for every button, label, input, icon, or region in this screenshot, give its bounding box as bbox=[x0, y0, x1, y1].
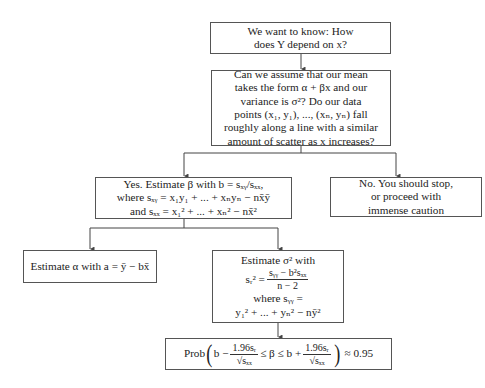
node-sigma-numerator: sᵧᵧ − b²sₓₓ bbox=[267, 267, 309, 280]
node-question: We want to know: How does Y depend on x? bbox=[210, 22, 391, 54]
node-ci-formula: Prob ( b − 1.96sᵣ √sₓₓ ≤ β ≤ b + 1.96sᵣ … bbox=[184, 341, 373, 367]
node-ci-approx: ≈ 0.95 bbox=[345, 347, 374, 360]
node-no: No. You should stop, or proceed with imm… bbox=[330, 177, 482, 217]
node-ci-fraction-2: 1.96sᵣ √sₓₓ bbox=[303, 342, 331, 367]
node-assumptions-line: points (x₁, y₁), ..., (xₙ, yₙ) fall bbox=[234, 108, 367, 121]
node-ci-num1: 1.96sᵣ bbox=[230, 342, 258, 355]
node-ci-mid: ≤ β ≤ b + bbox=[260, 347, 301, 360]
node-ci-den2: √sₓₓ bbox=[309, 355, 324, 367]
node-ci-den1: √sₓₓ bbox=[237, 355, 252, 367]
node-question-line: We want to know: How bbox=[248, 25, 354, 38]
node-no-line: immense caution bbox=[368, 204, 444, 217]
node-sigma-denominator: n − 2 bbox=[277, 280, 298, 292]
node-assumptions-line: amount of scatter as x increases? bbox=[228, 135, 375, 148]
node-assumptions: Can we assume that our mean takes the fo… bbox=[211, 70, 391, 146]
node-ci: Prob ( b − 1.96sᵣ √sₓₓ ≤ β ≤ b + 1.96sᵣ … bbox=[165, 338, 392, 370]
node-question-line: does Y depend on x? bbox=[254, 38, 347, 51]
node-ci-prob: Prob bbox=[184, 347, 205, 360]
node-assumptions-line: roughly along a line with a similar bbox=[224, 121, 378, 134]
node-yes-line: and sₓₓ = x₁² + ... + xₙ² − nx̄² bbox=[130, 205, 257, 218]
node-sigma: Estimate σ² with sᵣ² = sᵧᵧ − b²sₓₓ n − 2… bbox=[212, 250, 344, 323]
node-sigma-where: where sᵧᵧ = bbox=[253, 292, 303, 305]
node-yes-line: Yes. Estimate β with b = sₓᵧ/sₓₓ, bbox=[124, 178, 264, 191]
node-no-line: No. You should stop, bbox=[359, 177, 453, 190]
node-ci-num2: 1.96sᵣ bbox=[303, 342, 331, 355]
node-assumptions-line: Can we assume that our mean bbox=[234, 68, 368, 81]
node-assumptions-line: takes the form α + βx and our bbox=[235, 81, 368, 94]
node-sigma-formula: sᵣ² = sᵧᵧ − b²sₓₓ n − 2 bbox=[246, 267, 311, 292]
node-no-line: or proceed with bbox=[371, 190, 441, 203]
node-ci-fraction-1: 1.96sᵣ √sₓₓ bbox=[230, 342, 258, 367]
node-yes: Yes. Estimate β with b = sₓᵧ/sₓₓ, where … bbox=[95, 177, 292, 219]
node-alpha: Estimate α with a = ȳ − bx̄ bbox=[23, 250, 157, 283]
node-sigma-fraction: sᵧᵧ − b²sₓₓ n − 2 bbox=[267, 267, 309, 292]
left-paren: ( bbox=[206, 341, 212, 367]
node-alpha-line: Estimate α with a = ȳ − bx̄ bbox=[31, 260, 150, 273]
node-sigma-title: Estimate σ² with bbox=[241, 254, 315, 267]
right-paren: ) bbox=[334, 341, 340, 367]
node-assumptions-line: variance is σ²? Do our data bbox=[241, 95, 362, 108]
node-sigma-lhs: sᵣ² = bbox=[246, 273, 265, 286]
node-ci-b1: b − bbox=[214, 347, 229, 360]
node-yes-line: where sₓᵧ = x₁y₁ + ... + xₙyₙ − nx̄ȳ bbox=[117, 191, 270, 204]
node-sigma-expr: y₁² + ... + yₙ² − nȳ² bbox=[235, 306, 320, 319]
